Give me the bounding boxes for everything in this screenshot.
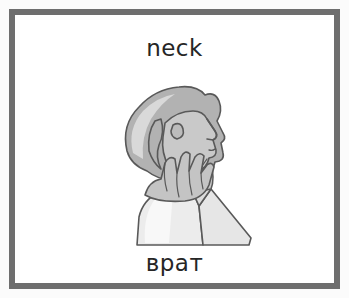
english-word-label: neck: [15, 37, 334, 60]
person-touching-neck-illustration: [99, 67, 259, 247]
vocabulary-flashcard: neck: [9, 9, 340, 289]
flashcard-content: neck: [15, 15, 334, 283]
translated-word-label: врат: [15, 252, 334, 275]
shirt-right-panel: [199, 189, 251, 245]
ear-detail: [171, 124, 183, 139]
